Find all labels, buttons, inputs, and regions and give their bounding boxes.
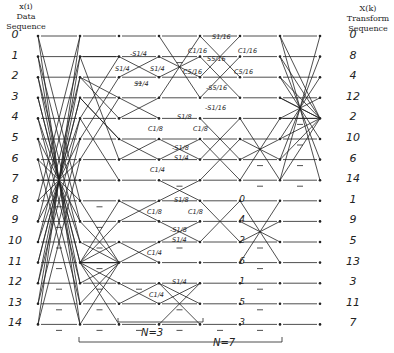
twiddle-label: C5/16: [183, 68, 202, 76]
input-index-label: 7: [4, 172, 26, 185]
bracket-label-n7: N=7: [213, 337, 235, 348]
output-index-label: 4: [342, 69, 364, 82]
intermediate-index-label: 5: [236, 297, 248, 307]
twiddle-label: S5/16: [207, 55, 226, 63]
output-index-label: 1: [342, 193, 364, 206]
input-index-label: 8: [4, 193, 26, 206]
twiddle-label: S1/8: [177, 113, 192, 121]
twiddle-label: C1/8: [193, 125, 208, 133]
output-index-label: 14: [342, 172, 364, 185]
output-index-label: 9: [342, 213, 364, 226]
output-index-label: 6: [342, 152, 364, 165]
twiddle-label: C1/16: [188, 47, 207, 55]
twiddle-label: C1/4: [147, 249, 162, 257]
twiddle-label: S1/4: [115, 65, 130, 73]
input-index-label: 0: [4, 28, 26, 41]
intermediate-index-label: 0: [236, 194, 248, 204]
twiddle-label: S1/4: [172, 278, 187, 286]
output-index-label: 8: [342, 49, 364, 62]
input-index-label: 1: [4, 49, 26, 62]
intermediate-index-label: 1: [236, 276, 248, 286]
input-index-label: 10: [4, 234, 26, 247]
twiddle-label: S1/4: [174, 154, 189, 162]
intermediate-index-label: 2: [236, 235, 248, 245]
output-index-label: 12: [342, 90, 364, 103]
twiddle-label: S1/16: [212, 33, 231, 41]
output-index-label: 3: [342, 275, 364, 288]
input-index-label: 14: [4, 316, 26, 329]
input-title-line2: Data: [0, 12, 52, 22]
input-title-line1: x(i): [0, 2, 52, 12]
bracket-label-n3: N=3: [141, 327, 163, 338]
input-index-label: 12: [4, 275, 26, 288]
twiddle-label: S1/4: [150, 65, 165, 73]
output-title-line2: Transform: [342, 14, 394, 24]
twiddle-label: S1/4: [172, 236, 187, 244]
twiddle-label: -S1/16: [205, 104, 226, 112]
input-index-label: 3: [4, 90, 26, 103]
twiddle-label: C1/8: [148, 125, 163, 133]
output-title-line1: X(k): [342, 4, 394, 14]
twiddle-label: S1/4: [134, 80, 149, 88]
output-index-label: 5: [342, 234, 364, 247]
twiddle-label: C1/4: [149, 291, 164, 299]
twiddle-label: -S5/16: [206, 84, 227, 92]
twiddle-label: -S1/8: [170, 226, 187, 234]
intermediate-index-label: 3: [236, 317, 248, 327]
twiddle-label: C1/16: [238, 47, 257, 55]
twiddle-label: C1/4: [150, 166, 165, 174]
output-index-label: 0: [342, 28, 364, 41]
input-index-label: 5: [4, 131, 26, 144]
input-index-label: 13: [4, 296, 26, 309]
twiddle-label: C1/8: [147, 208, 162, 216]
intermediate-index-label: 4: [236, 214, 248, 224]
twiddle-label: C1/8: [188, 208, 203, 216]
output-index-label: 10: [342, 131, 364, 144]
output-index-label: 13: [342, 255, 364, 268]
output-index-label: 2: [342, 110, 364, 123]
input-index-label: 6: [4, 152, 26, 165]
output-index-label: 7: [342, 316, 364, 329]
input-index-label: 4: [4, 110, 26, 123]
input-index-label: 2: [4, 69, 26, 82]
twiddle-label: C5/16: [234, 68, 253, 76]
twiddle-label: S1/8: [174, 196, 189, 204]
output-index-label: 11: [342, 296, 364, 309]
intermediate-index-label: 6: [236, 256, 248, 266]
twiddle-label: -S1/8: [172, 144, 189, 152]
input-index-label: 11: [4, 255, 26, 268]
twiddle-label: -S1/4: [130, 50, 147, 58]
input-index-label: 9: [4, 213, 26, 226]
